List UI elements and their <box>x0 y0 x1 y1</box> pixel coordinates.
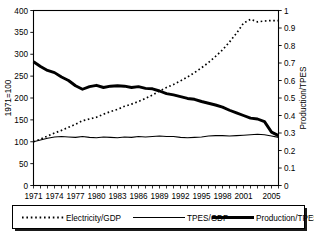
x-axis-tick-label: 2005 <box>262 192 281 201</box>
y-axis-tick-label: 350 <box>14 28 28 37</box>
y-axis-tick-label: 50 <box>19 160 29 169</box>
y2-axis-tick-label: 0.4 <box>284 112 296 121</box>
y2-axis-tick-label: 0.3 <box>284 129 296 138</box>
x-axis-tick-label: 1998 <box>213 192 232 201</box>
y2-axis-tick-label: 0.1 <box>284 164 296 173</box>
y-axis-tick-label: 0 <box>23 182 28 191</box>
x-axis-tick-label: 1986 <box>129 192 148 201</box>
x-axis-tick-label: 1995 <box>192 192 211 201</box>
y2-axis-tick-label: 0.6 <box>284 77 296 86</box>
y2-axis-tick-label: 0.2 <box>284 147 296 156</box>
y2-axis-title: Production/TPES <box>299 66 308 129</box>
x-axis-tick-label: 1983 <box>108 192 127 201</box>
y2-axis-tick-label: 0 <box>284 182 289 191</box>
x-axis-tick-label: 1980 <box>87 192 106 201</box>
x-axis-tick-label: 1977 <box>66 192 85 201</box>
legend-label-1: Electricity/GDP <box>66 214 122 223</box>
y-axis-tick-label: 250 <box>14 72 28 81</box>
y2-axis-tick-label: 0.9 <box>284 24 296 33</box>
y2-axis-tick-label: 1 <box>284 7 289 16</box>
x-axis-tick-label: 1989 <box>150 192 169 201</box>
y-axis-title: 1971=100 <box>4 79 13 116</box>
legend-label-3: Production/TPES <box>256 214 314 223</box>
y-axis-tick-label: 100 <box>14 138 28 147</box>
y-axis-tick-label: 150 <box>14 116 28 125</box>
y-axis-tick-label: 300 <box>14 50 28 59</box>
y2-axis-tick-label: 0.5 <box>284 94 296 103</box>
chart-svg: 05010015020025030035040000.10.20.30.40.5… <box>0 0 314 233</box>
y2-axis-tick-label: 0.7 <box>284 59 296 68</box>
chart-figure: 05010015020025030035040000.10.20.30.40.5… <box>0 0 314 233</box>
x-axis-tick-label: 1974 <box>45 192 64 201</box>
plot-area-frame <box>34 11 279 186</box>
y-axis-tick-label: 200 <box>14 94 28 103</box>
x-axis-tick-label: 1992 <box>171 192 190 201</box>
y-axis-tick-label: 400 <box>14 7 28 16</box>
x-axis-tick-label: 1971 <box>24 192 43 201</box>
x-axis-tick-label: 2001 <box>234 192 253 201</box>
y2-axis-tick-label: 0.8 <box>284 42 296 51</box>
